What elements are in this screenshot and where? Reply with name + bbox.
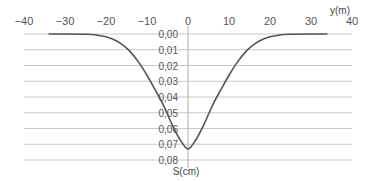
chart: −40−30−20−10010203040 0,000,010,020,030,… (0, 0, 367, 181)
y-tick-label: 0,07 (159, 139, 179, 150)
x-tick-labels: −40−30−20−10010203040 (15, 15, 358, 27)
x-tick-label: −10 (138, 15, 157, 27)
y-tick-label: 0,02 (159, 61, 179, 72)
y-tick-label: 0,01 (159, 45, 179, 56)
y-tick-labels: 0,000,010,020,030,040,050,060,070,08 (159, 29, 179, 166)
x-axis-label: y(m) (330, 5, 350, 16)
x-tick-label: 40 (346, 15, 358, 27)
x-tick-label: −40 (15, 15, 34, 27)
x-tick-label: 30 (305, 15, 317, 27)
y-tick-label: 0,08 (159, 155, 179, 166)
x-tick-label: −20 (97, 15, 116, 27)
x-tick-label: 10 (223, 15, 235, 27)
y-tick-label: 0,03 (159, 76, 179, 87)
x-tick-label: 0 (185, 15, 191, 27)
x-tick-label: −30 (56, 15, 75, 27)
x-tick-label: 20 (264, 15, 276, 27)
y-tick-label: 0,00 (159, 29, 179, 40)
y-axis-label: S(cm) (173, 166, 200, 177)
